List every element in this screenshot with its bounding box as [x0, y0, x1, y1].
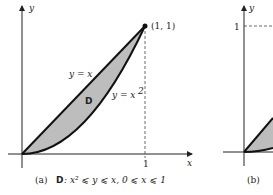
b-y-axis-label: y [248, 3, 255, 13]
lower-curve-exponent: 2 [137, 86, 144, 96]
point-1-1 [143, 24, 148, 29]
figure: y x (1, 1) 1 y = x y = x 2 D (a) D : x² … [0, 0, 273, 195]
panel-b: y 1 (b) [223, 3, 273, 185]
lower-curve-label: y = x [111, 90, 135, 100]
x-axis-label: x [187, 158, 192, 168]
caption-b-prefix: (b) [247, 175, 260, 185]
caption-a-region: D [56, 175, 63, 185]
point-label: (1, 1) [151, 21, 175, 31]
caption-a-text: : x² ⩽ y ⩽ x, 0 ⩽ x ⩽ 1 [64, 175, 166, 185]
y-axis-label: y [28, 3, 35, 13]
region-label: D [85, 96, 92, 106]
upper-curve-label: y = x [68, 69, 92, 79]
panel-a: y x (1, 1) 1 y = x y = x 2 D (a) D : x² … [8, 3, 192, 185]
x-tick-label: 1 [143, 159, 149, 169]
caption-a-prefix: (a) [35, 175, 47, 185]
b-y-tick-label: 1 [234, 22, 240, 32]
